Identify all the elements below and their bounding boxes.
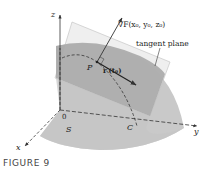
- x-axis-label: x: [16, 143, 21, 152]
- y-axis-label: y: [193, 127, 199, 136]
- surface-label: S: [66, 125, 72, 134]
- z-axis-label: z: [50, 10, 56, 19]
- point-label: P: [86, 63, 93, 72]
- tangent-vector-label: r′(t₀): [103, 66, 121, 75]
- curve-label: C: [127, 123, 133, 132]
- gradient-label: ∇F(x₀, y₀, z₀): [118, 20, 165, 29]
- figure-diagram: z x y 0 S C P ∇F(x₀, y₀, z₀) r′(t₀) tang…: [0, 0, 210, 175]
- tangent-plane-label: tangent plane: [136, 39, 189, 48]
- origin-label: 0: [62, 113, 66, 121]
- figure-caption: FIGURE 9: [3, 158, 50, 168]
- point-p: [96, 61, 99, 64]
